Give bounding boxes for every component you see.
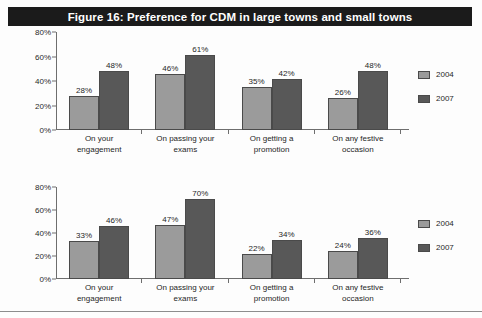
bar-value-label: 48% <box>365 61 381 70</box>
bar-2004[interactable] <box>69 96 99 130</box>
bar-column-2007: 42% <box>272 32 302 130</box>
bar-pair: 28%48% <box>56 32 142 130</box>
category-label: On getting apromotion <box>229 283 315 304</box>
bar-value-label: 28% <box>76 86 92 95</box>
category-label-line: On passing your <box>142 134 228 145</box>
bar-2007[interactable] <box>185 199 215 280</box>
category-labels-bottom: On yourengagementOn passing yourexamsOn … <box>56 283 401 304</box>
bar-column-2004: 22% <box>242 187 272 279</box>
category-label-line: On getting a <box>229 134 315 145</box>
bar-2007[interactable] <box>185 55 215 130</box>
bar-column-2004: 28% <box>69 32 99 130</box>
bar-group: 24%36% <box>315 187 401 279</box>
category-label: On passing yourexams <box>142 283 228 304</box>
bar-column-2007: 70% <box>185 187 215 279</box>
bar-2004[interactable] <box>328 251 358 279</box>
legend-label: 2004 <box>436 219 454 228</box>
legend-item-2004[interactable]: 2004 <box>418 219 454 228</box>
legend-top: 20042007 <box>418 70 454 118</box>
bar-group: 26%48% <box>315 32 401 130</box>
legend-label: 2007 <box>436 243 454 252</box>
bar-2007[interactable] <box>99 226 129 279</box>
bar-2004[interactable] <box>155 74 185 130</box>
category-label-line: engagement <box>56 145 142 156</box>
bar-2007[interactable] <box>272 240 302 279</box>
category-label: On passing yourexams <box>142 134 228 155</box>
bar-pair: 47%70% <box>142 187 228 279</box>
category-label-line: promotion <box>229 145 315 156</box>
category-label-line: occasion <box>315 294 401 305</box>
bar-column-2004: 24% <box>328 187 358 279</box>
category-label-line: exams <box>142 294 228 305</box>
bar-2004[interactable] <box>69 241 99 279</box>
figure-page: Figure 16: Preference for CDM in large t… <box>0 0 482 318</box>
legend-swatch-icon <box>418 95 430 103</box>
y-tick-label: 40% <box>35 229 51 238</box>
bar-column-2007: 36% <box>358 187 388 279</box>
y-tick-label: 60% <box>35 52 51 61</box>
bar-column-2004: 46% <box>155 32 185 130</box>
bar-pair: 33%46% <box>56 187 142 279</box>
bar-value-label: 48% <box>106 61 122 70</box>
bar-value-label: 35% <box>249 77 265 86</box>
category-label-line: engagement <box>56 294 142 305</box>
category-label-line: On any festive <box>315 283 401 294</box>
bar-column-2004: 33% <box>69 187 99 279</box>
category-label: On getting apromotion <box>229 134 315 155</box>
bar-value-label: 46% <box>162 64 178 73</box>
bar-pair: 22%34% <box>229 187 315 279</box>
category-label-line: On your <box>56 283 142 294</box>
legend-label: 2004 <box>436 70 454 79</box>
bar-value-label: 46% <box>106 216 122 225</box>
category-label: On any festiveoccasion <box>315 134 401 155</box>
bar-groups-bottom: 33%46%47%70%22%34%24%36% <box>56 187 401 279</box>
plot-area-top: 0%20%40%60%80% 28%48%46%61%35%42%26%48% <box>56 32 401 130</box>
bar-2007[interactable] <box>358 71 388 130</box>
footer-rule <box>0 311 482 312</box>
category-labels-top: On yourengagementOn passing yourexamsOn … <box>56 134 401 155</box>
chart-large-towns: 0%20%40%60%80% 28%48%46%61%35%42%26%48% … <box>0 28 482 163</box>
bar-value-label: 34% <box>279 230 295 239</box>
legend-swatch-icon <box>418 244 430 252</box>
bar-2007[interactable] <box>358 238 388 279</box>
chart-small-towns: 0%20%40%60%80% 33%46%47%70%22%34%24%36% … <box>0 183 482 308</box>
bar-value-label: 24% <box>335 241 351 250</box>
legend-item-2007[interactable]: 2007 <box>418 94 454 103</box>
category-label-line: On getting a <box>229 283 315 294</box>
y-tick-label: 80% <box>35 183 51 192</box>
bar-column-2007: 46% <box>99 187 129 279</box>
legend-bottom: 20042007 <box>418 219 454 267</box>
bar-2004[interactable] <box>328 98 358 130</box>
bar-2007[interactable] <box>272 79 302 130</box>
bar-2004[interactable] <box>242 254 272 279</box>
category-label-line: exams <box>142 145 228 156</box>
bar-2004[interactable] <box>155 225 185 279</box>
legend-item-2007[interactable]: 2007 <box>418 243 454 252</box>
legend-label: 2007 <box>436 94 454 103</box>
category-label: On yourengagement <box>56 134 142 155</box>
bar-value-label: 22% <box>249 244 265 253</box>
category-label: On any festiveoccasion <box>315 283 401 304</box>
legend-swatch-icon <box>418 220 430 228</box>
bar-group: 47%70% <box>142 187 228 279</box>
bar-pair: 24%36% <box>315 187 401 279</box>
bar-column-2007: 48% <box>99 32 129 130</box>
bar-2004[interactable] <box>242 87 272 130</box>
legend-item-2004[interactable]: 2004 <box>418 70 454 79</box>
figure-title-bar: Figure 16: Preference for CDM in large t… <box>8 7 472 26</box>
bar-2007[interactable] <box>99 71 129 130</box>
bar-column-2007: 61% <box>185 32 215 130</box>
y-tick-label: 60% <box>35 206 51 215</box>
bar-column-2007: 48% <box>358 32 388 130</box>
legend-swatch-icon <box>418 71 430 79</box>
bar-value-label: 26% <box>335 88 351 97</box>
bar-column-2004: 26% <box>328 32 358 130</box>
bar-group: 28%48% <box>56 32 142 130</box>
bar-value-label: 47% <box>162 215 178 224</box>
y-tick-label: 40% <box>35 77 51 86</box>
bar-groups-top: 28%48%46%61%35%42%26%48% <box>56 32 401 130</box>
bar-column-2004: 35% <box>242 32 272 130</box>
y-tick-label: 0% <box>39 126 51 135</box>
category-label-line: occasion <box>315 145 401 156</box>
bar-value-label: 42% <box>279 69 295 78</box>
